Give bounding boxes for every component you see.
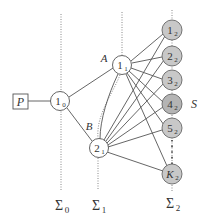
svg-text:Σ: Σ bbox=[55, 198, 63, 213]
svg-text:1: 1 bbox=[167, 24, 173, 36]
node-2-1-sub: 1 bbox=[101, 148, 105, 156]
layer2-node-3: 3 2 bbox=[162, 70, 182, 90]
svg-text:Σ: Σ bbox=[166, 196, 174, 211]
node-2-1-label: 2 bbox=[94, 142, 100, 154]
svg-text:5: 5 bbox=[167, 122, 173, 134]
diagram-canvas: P 1 0 1 1 2 1 A B 1 2 2 2 3 2 4 2 5 2 K … bbox=[0, 0, 206, 218]
svg-text:2: 2 bbox=[167, 50, 173, 62]
sigma0-label: Σ 0 bbox=[55, 198, 70, 215]
layer2-node-1: 1 2 bbox=[162, 20, 182, 40]
svg-text:2: 2 bbox=[174, 104, 178, 112]
sigma1-dotted-curve bbox=[98, 75, 120, 138]
svg-text:2: 2 bbox=[174, 80, 178, 88]
svg-text:2: 2 bbox=[175, 174, 179, 182]
node-1-0-sub: 0 bbox=[62, 101, 66, 109]
edge-label-a: A bbox=[100, 52, 108, 64]
svg-text:2: 2 bbox=[174, 128, 178, 136]
svg-text:2: 2 bbox=[176, 203, 181, 213]
svg-text:K: K bbox=[165, 168, 174, 180]
layer2-node-2: 2 2 bbox=[162, 46, 182, 66]
svg-text:3: 3 bbox=[167, 74, 173, 86]
svg-text:4: 4 bbox=[167, 98, 173, 110]
svg-text:0: 0 bbox=[65, 205, 70, 215]
node-1-1-label: 1 bbox=[117, 59, 123, 71]
svg-text:Σ: Σ bbox=[92, 198, 100, 213]
source-label: P bbox=[16, 95, 25, 109]
svg-text:2: 2 bbox=[174, 56, 178, 64]
layer2-node-5: 5 2 bbox=[162, 118, 182, 138]
layer2-node-k: K 2 bbox=[162, 164, 182, 184]
sigma1-label: Σ 1 bbox=[92, 198, 106, 215]
node-1-1-sub: 1 bbox=[124, 65, 128, 73]
node-1-0-label: 1 bbox=[55, 95, 61, 107]
set-label-s: S bbox=[191, 97, 197, 111]
svg-text:2: 2 bbox=[174, 30, 178, 38]
layer2-node-4: 4 2 bbox=[162, 94, 182, 114]
svg-text:1: 1 bbox=[102, 205, 107, 215]
sigma2-label: Σ 2 bbox=[166, 196, 180, 213]
edge-label-b: B bbox=[86, 120, 93, 132]
